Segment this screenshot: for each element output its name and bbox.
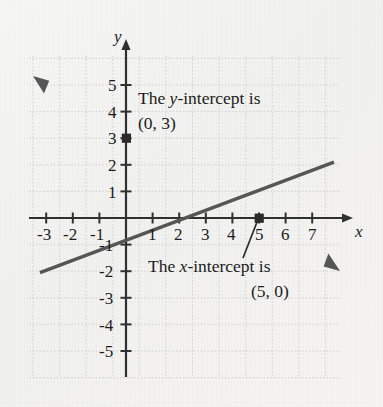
x-intercept-callout-line1: The x-intercept is: [148, 258, 270, 276]
x-tick-label-3: 3: [201, 226, 210, 243]
x-tick-label-5: 5: [255, 226, 264, 243]
x-callout-suffix: -intercept is: [187, 256, 270, 276]
line-arrowhead-upper-left: [33, 76, 49, 94]
x-tick-label-1: 1: [148, 226, 157, 243]
y-axis: [121, 39, 130, 377]
y-tick-label-3: 3: [108, 130, 117, 147]
y-tick-label--4: -4: [99, 317, 113, 334]
coordinate-plane: [0, 0, 383, 407]
line-arrowhead-lower-right: [324, 254, 340, 271]
y-intercept-callout-line2: (0, 3): [138, 115, 176, 133]
x-axis-label: x: [355, 223, 363, 240]
y-intercept-point-marker: [122, 134, 131, 143]
y-intercept-callout-line1: The y-intercept is: [138, 90, 260, 108]
y-tick-label-5: 5: [108, 77, 117, 94]
x-tick-label-7: 7: [308, 226, 317, 243]
x-tick-label-4: 4: [227, 226, 236, 243]
y-tick-label-2: 2: [108, 157, 117, 174]
x-intercept-callout-line2: (5, 0): [251, 283, 289, 301]
y-tick-label--2: -2: [99, 263, 113, 280]
graph-figure: y x -3 -2 -1 1 2 3 4 5 6 7 5 4 3 2 1 -1 …: [0, 0, 383, 407]
y-tick-label--1: -1: [99, 237, 113, 254]
x-tick-label--3: -3: [37, 226, 51, 243]
y-tick-label-1: 1: [108, 184, 117, 201]
y-tick-label--5: -5: [99, 343, 113, 360]
y-tick-label--3: -3: [99, 290, 113, 307]
y-tick-label-4: 4: [108, 104, 117, 121]
y-callout-suffix: -intercept is: [177, 88, 260, 108]
x-intercept-point-marker: [255, 214, 264, 223]
y-axis-label: y: [114, 28, 122, 45]
x-tick-label-6: 6: [281, 226, 290, 243]
x-tick-label-2: 2: [174, 226, 183, 243]
y-callout-prefix: The: [138, 88, 170, 108]
x-callout-prefix: The: [148, 256, 180, 276]
x-tick-label--2: -2: [63, 226, 77, 243]
